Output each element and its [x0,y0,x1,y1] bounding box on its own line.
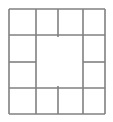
grid-cell-top-cell-4 [83,9,105,35]
grid-cell-bottom-cell-3 [58,88,83,114]
grid-cell-left-cell-2 [9,62,36,88]
grid-cell-top-cell-1 [9,9,36,35]
grid-cell-top-cell-2 [36,9,58,35]
frame-grid-diagram [0,0,113,122]
diagram-canvas [0,0,113,122]
grid-cell-left-cell-1 [9,35,36,62]
grid-cell-right-cell-2 [83,62,105,88]
grid-cell-right-cell-1 [83,35,105,62]
grid-cell-bottom-cell-2 [36,88,58,114]
center-open-region [36,35,83,88]
grid-cell-bottom-cell-1 [9,88,36,114]
grid-cell-top-cell-3 [58,9,83,35]
grid-cell-bottom-cell-4 [83,88,105,114]
